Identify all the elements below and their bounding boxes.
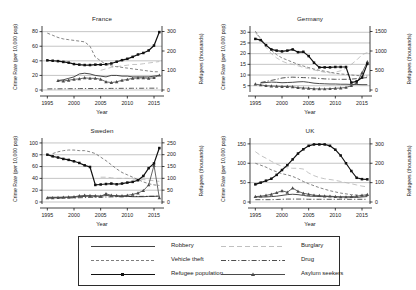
panel-uk: UKCrime Rate (per 10,000 pop)Refugees (t… <box>208 118 416 230</box>
marker-refugee-population <box>142 52 145 55</box>
legend-label-burglary: Burglary <box>301 242 323 248</box>
legend-label-drug: Drug <box>301 256 314 262</box>
series-line-drug <box>47 88 159 89</box>
marker-refugee-population <box>89 64 92 66</box>
marker-asylum-seekers <box>291 186 294 189</box>
marker-refugee-population <box>323 143 326 146</box>
marker-refugee-population <box>78 63 81 65</box>
marker-refugee-population <box>110 182 113 185</box>
marker-refugee-population <box>313 61 316 64</box>
marker-refugee-population <box>126 181 129 184</box>
series-line-burglary <box>255 32 367 73</box>
marker-refugee-population <box>94 184 97 187</box>
marker-refugee-population <box>350 81 353 84</box>
legend-key-vehicle-theft <box>89 256 157 265</box>
plot-area <box>208 6 416 118</box>
legend-key-drug <box>219 256 287 265</box>
marker-refugee-population <box>67 159 70 162</box>
marker-refugee-population <box>99 63 102 65</box>
legend-label-refugee-population: Refugee population <box>171 270 223 276</box>
series-line-asylum-seekers <box>255 62 367 89</box>
marker-refugee-population <box>131 56 134 59</box>
marker-refugee-population <box>355 177 358 180</box>
panel-sweden: SwedenCrime Rate (per 10,000 pop)Refugee… <box>0 118 208 230</box>
marker-refugee-population <box>62 61 64 64</box>
marker-refugee-population <box>78 162 81 165</box>
marker-refugee-population <box>323 66 326 69</box>
marker-refugee-population <box>259 39 262 42</box>
marker-refugee-population <box>115 183 118 186</box>
marker-refugee-population <box>361 178 364 181</box>
marker-refugee-population <box>142 175 145 178</box>
marker-refugee-population <box>67 61 70 64</box>
marker-asylum-seekers <box>280 189 283 192</box>
marker-refugee-population <box>46 59 49 62</box>
marker-refugee-population <box>57 156 60 159</box>
marker-refugee-population <box>334 66 337 69</box>
panel-germany: GermanyCrime Rate (per 10,000 pop)Refuge… <box>208 6 416 118</box>
marker-refugee-population <box>265 179 268 182</box>
marker-refugee-population <box>83 164 86 167</box>
marker-refugee-population <box>291 158 294 161</box>
marker-asylum-seekers <box>104 192 107 195</box>
marker-refugee-population <box>147 49 150 52</box>
marker-refugee-population <box>254 183 257 186</box>
marker-refugee-population <box>329 145 332 148</box>
series-line-refugee-population <box>255 39 367 83</box>
marker-refugee-population <box>259 181 262 184</box>
plot-area <box>0 118 208 230</box>
marker-refugee-population <box>46 153 49 156</box>
marker-refugee-population <box>275 49 278 52</box>
marker-refugee-population <box>147 167 150 170</box>
marker-refugee-population <box>89 166 92 169</box>
legend-label-robbery: Robbery <box>171 242 194 248</box>
marker-refugee-population <box>94 63 97 65</box>
legend-key-asylum-seekers <box>219 270 287 279</box>
marker-refugee-population <box>286 49 289 52</box>
marker-refugee-population <box>345 66 348 69</box>
series-line-burglary <box>101 62 160 71</box>
marker-refugee-population <box>137 53 140 56</box>
marker-refugee-population <box>126 58 129 61</box>
marker-refugee-population <box>158 147 161 150</box>
legend-key-robbery <box>89 242 157 251</box>
marker-refugee-population <box>110 62 113 65</box>
marker-refugee-population <box>297 51 300 54</box>
marker-refugee-population <box>270 48 272 51</box>
marker-refugee-population <box>158 31 161 33</box>
marker-refugee-population <box>275 174 278 177</box>
marker-refugee-population <box>51 60 54 63</box>
figure-root: FranceCrime Rate (per 10,000 pop)Refugee… <box>0 0 416 290</box>
marker-refugee-population <box>291 48 294 51</box>
marker-refugee-population <box>361 76 364 79</box>
marker-refugee-population <box>281 50 284 53</box>
marker-refugee-population <box>307 145 310 148</box>
marker-refugee-population <box>121 182 124 185</box>
legend: RobberyBurglaryVehicle theftDrugRefugee … <box>78 236 340 286</box>
marker-refugee-population <box>345 162 348 165</box>
marker-refugee-population <box>265 44 268 47</box>
marker-refugee-population <box>254 38 257 41</box>
marker-refugee-population <box>131 181 134 184</box>
marker-refugee-population <box>73 63 76 66</box>
marker-refugee-population <box>307 55 310 58</box>
series-line-asylum-seekers <box>47 165 159 197</box>
marker-refugee-population <box>313 143 316 146</box>
marker-refugee-population <box>137 179 140 182</box>
marker-refugee-population <box>105 63 108 66</box>
marker-refugee-population <box>366 178 369 181</box>
series-line-refugee-population <box>47 32 159 65</box>
marker-refugee-population <box>339 154 342 157</box>
plot-area <box>0 6 208 118</box>
marker-refugee-population <box>121 59 124 62</box>
marker-refugee-population <box>153 44 156 47</box>
marker-refugee-population <box>350 170 353 173</box>
marker-refugee-population <box>297 152 300 155</box>
legend-key-burglary <box>219 242 287 251</box>
plot-area <box>208 118 416 230</box>
marker-refugee-population <box>73 160 76 163</box>
marker-refugee-population <box>153 162 156 165</box>
marker-refugee-population <box>62 158 64 161</box>
marker-refugee-population <box>318 66 321 69</box>
marker-refugee-population <box>366 63 369 66</box>
